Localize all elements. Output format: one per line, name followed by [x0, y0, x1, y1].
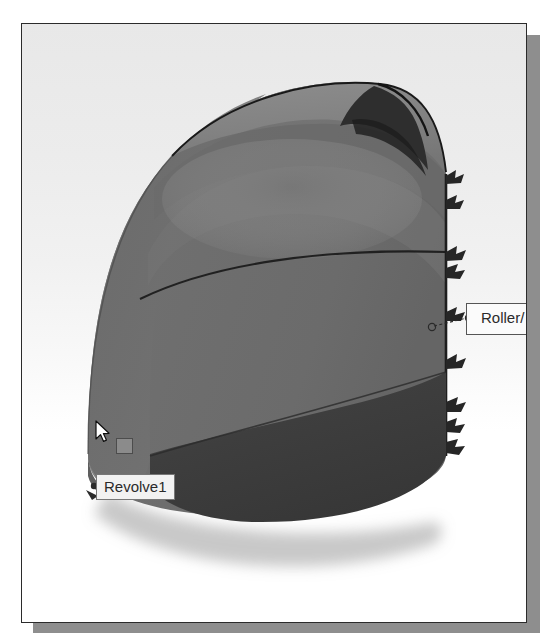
roller-symbol	[446, 264, 465, 279]
roller-callout-label: Roller/	[481, 309, 524, 326]
roller-symbol	[446, 195, 464, 209]
roller-constraint-callout[interactable]: Roller/	[466, 303, 527, 335]
graphics-area[interactable]: Roller/ Revolve1	[22, 24, 526, 622]
roller-symbol	[446, 354, 466, 369]
viewport-frame: Roller/ Revolve1	[21, 23, 527, 623]
roller-symbol	[446, 246, 466, 261]
roller-constraint-symbols[interactable]	[446, 170, 466, 455]
revolve-feature-tooltip[interactable]: Revolve1	[96, 474, 175, 500]
roller-symbol	[446, 439, 465, 455]
roller-symbol	[446, 418, 465, 433]
screenshot-root: Roller/ Revolve1	[0, 0, 543, 637]
feature-square-icon[interactable]	[116, 438, 133, 454]
roller-symbol	[446, 397, 466, 412]
three-d-model[interactable]	[22, 24, 527, 623]
model-dome-highlight	[162, 139, 422, 259]
revolve-tooltip-label: Revolve1	[104, 478, 167, 495]
roller-symbol	[446, 170, 464, 184]
